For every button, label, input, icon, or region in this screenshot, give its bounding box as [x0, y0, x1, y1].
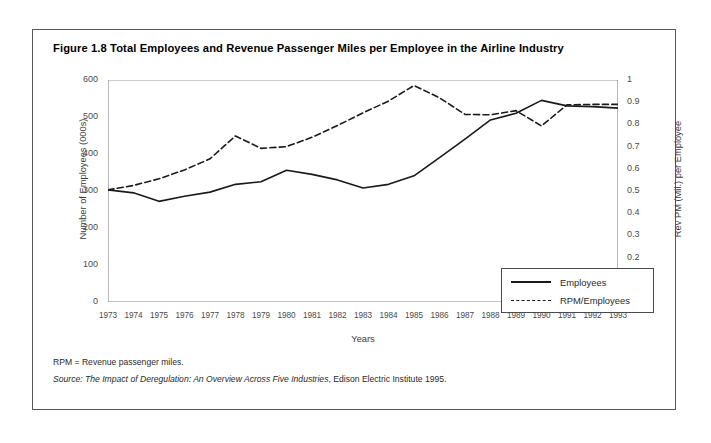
y-axis-left-tick-300: 300: [64, 185, 98, 195]
y-axis-right-tick-0.9: 0.9: [627, 96, 661, 106]
y-axis-left-tick-200: 200: [64, 222, 98, 232]
legend-item-employees: Employees: [511, 275, 606, 289]
y-axis-left-tick-0: 0: [64, 296, 98, 306]
legend-line-solid-icon: [511, 281, 551, 283]
legend-label-employees: Employees: [560, 277, 606, 288]
note-rpm-definition: RPM = Revenue passenger miles.: [53, 357, 184, 367]
y-axis-left-tick-100: 100: [64, 259, 98, 269]
chart-legend: Employees RPM/Employees: [501, 268, 654, 313]
legend-label-rpm-employees: RPM/Employees: [560, 295, 630, 306]
y-axis-right-tick-0.5: 0.5: [627, 185, 661, 195]
y-axis-right-tick-0.8: 0.8: [627, 118, 661, 128]
figure-title: Figure 1.8 Total Employees and Revenue P…: [53, 42, 653, 54]
figure-page: Figure 1.8 Total Employees and Revenue P…: [0, 0, 711, 443]
y-axis-right-tick-0.3: 0.3: [627, 229, 661, 239]
y-axis-right-tick-0.2: 0.2: [627, 252, 661, 262]
y-axis-left-tick-600: 600: [64, 74, 98, 84]
y-axis-right-tick-0.6: 0.6: [627, 163, 661, 173]
legend-line-dashed-icon: [511, 300, 551, 301]
y-axis-left-tick-500: 500: [64, 111, 98, 121]
figure-frame: Figure 1.8 Total Employees and Revenue P…: [32, 29, 676, 410]
note-source-suffix: , Edison Electric Institute 1995.: [328, 374, 446, 384]
y-axis-right-title: Rev PM (Mil.) per Employee: [673, 68, 683, 290]
y-axis-right-tick-1: 1: [627, 74, 661, 84]
legend-item-rpm-per-employee: RPM/Employees: [511, 293, 630, 307]
y-axis-right-tick-0.7: 0.7: [627, 141, 661, 151]
y-axis-left-tick-400: 400: [64, 148, 98, 158]
note-source: Source: The Impact of Deregulation: An O…: [53, 374, 446, 384]
y-axis-right-tick-0.4: 0.4: [627, 207, 661, 217]
chart-series: [108, 86, 618, 202]
note-source-title: The Impact of Deregulation: An Overview …: [85, 374, 328, 384]
chart-plot-area: Number of Employees (000s) Rev PM (Mil.)…: [108, 80, 618, 302]
note-source-prefix: Source:: [53, 374, 85, 384]
x-axis-title: Years: [108, 334, 618, 344]
y-axis-left-title: Number of Employees (000s): [78, 68, 88, 290]
